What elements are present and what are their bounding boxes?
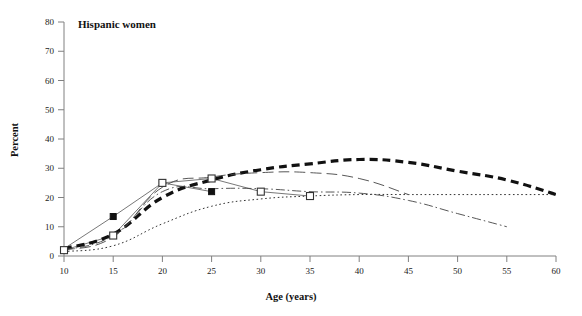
x-tick-group: 1015202530354045505560 <box>60 256 562 276</box>
y-tick-group: 01020304050607080 <box>45 17 64 261</box>
x-tick-label: 55 <box>502 266 512 276</box>
data-point-marker <box>208 175 215 182</box>
series-line-dash-dot <box>64 186 507 250</box>
y-axis: 01020304050607080 <box>45 17 64 261</box>
series-line-dotted <box>64 194 556 251</box>
data-point-marker <box>110 214 116 220</box>
series-layer <box>64 159 556 251</box>
y-tick-label: 30 <box>45 163 55 173</box>
x-tick-label: 25 <box>207 266 217 276</box>
y-tick-label: 40 <box>45 134 55 144</box>
chart-container: 01020304050607080 1015202530354045505560… <box>0 0 582 316</box>
x-tick-label: 60 <box>552 266 562 276</box>
y-tick-label: 20 <box>45 193 55 203</box>
data-point-marker <box>307 193 314 200</box>
x-tick-label: 30 <box>256 266 266 276</box>
x-tick-label: 20 <box>158 266 168 276</box>
series-line-open-square-solid-early <box>64 178 310 250</box>
y-tick-label: 80 <box>45 17 55 27</box>
data-point-marker <box>159 179 166 186</box>
x-axis-title: Age (years) <box>265 291 317 303</box>
y-tick-label: 0 <box>50 251 55 261</box>
x-axis: 1015202530354045505560 <box>60 256 562 276</box>
x-tick-label: 40 <box>355 266 365 276</box>
hispanic-women-line-chart: 01020304050607080 1015202530354045505560… <box>0 0 582 316</box>
marker-layer <box>61 175 314 254</box>
y-tick-label: 10 <box>45 222 55 232</box>
y-tick-label: 70 <box>45 46 55 56</box>
x-tick-label: 45 <box>404 266 414 276</box>
y-tick-label: 60 <box>45 76 55 86</box>
data-point-marker <box>110 232 117 239</box>
x-tick-label: 50 <box>453 266 463 276</box>
chart-title: Hispanic women <box>78 18 156 30</box>
data-point-marker <box>209 189 215 195</box>
x-tick-label: 15 <box>109 266 119 276</box>
y-tick-label: 50 <box>45 105 55 115</box>
data-point-marker <box>61 247 68 254</box>
x-tick-label: 10 <box>60 266 70 276</box>
y-axis-title: Percent <box>9 122 20 157</box>
data-point-marker <box>257 188 264 195</box>
x-tick-label: 35 <box>306 266 316 276</box>
